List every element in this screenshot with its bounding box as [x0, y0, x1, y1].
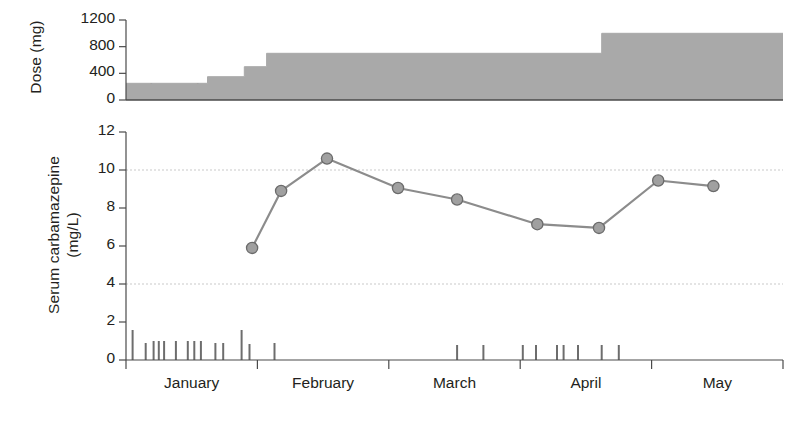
serum-data-point[interactable]: [276, 185, 287, 196]
figure-root: Dose (mg) Serum carbamazepine(mg/L) 1200…: [0, 0, 801, 422]
serum-data-point[interactable]: [593, 222, 604, 233]
serum-data-point[interactable]: [247, 242, 258, 253]
serum-data-point[interactable]: [452, 194, 463, 205]
serum-data-point[interactable]: [532, 219, 543, 230]
dose-step-band: [126, 33, 783, 100]
plot-canvas: [0, 0, 801, 422]
serum-data-point[interactable]: [708, 181, 719, 192]
serum-data-point[interactable]: [321, 153, 332, 164]
serum-data-line: [252, 159, 713, 248]
serum-data-point[interactable]: [653, 175, 664, 186]
serum-data-point[interactable]: [392, 182, 403, 193]
